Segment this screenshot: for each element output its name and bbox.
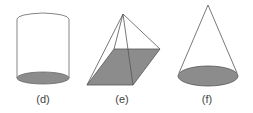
label-f: (f) xyxy=(202,93,212,105)
label-e: (e) xyxy=(115,93,128,105)
cone-figure: (f) xyxy=(178,5,238,105)
cylinder-base xyxy=(17,72,69,84)
cone-base xyxy=(178,66,238,86)
pyramid-figure: (e) xyxy=(87,14,160,105)
pyramid-base xyxy=(87,49,160,85)
solids-diagram: (d) (e) (f) xyxy=(0,0,253,113)
cylinder-figure: (d) xyxy=(17,13,69,105)
label-d: (d) xyxy=(36,93,49,105)
